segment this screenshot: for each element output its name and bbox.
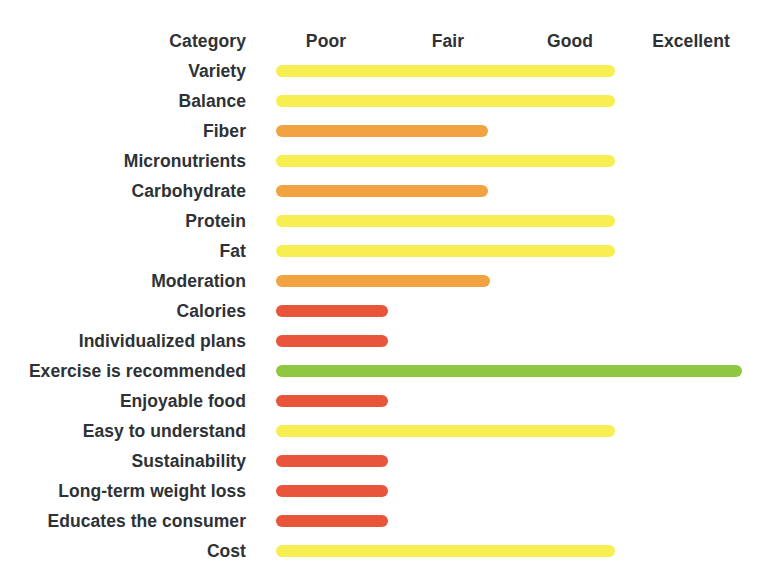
bar-track [276, 270, 746, 292]
bar-track [276, 360, 746, 382]
header-scale-fair: Fair [398, 30, 498, 52]
bar-track [276, 60, 746, 82]
chart-row: Easy to understand [0, 420, 757, 450]
rating-bar [276, 155, 615, 167]
bar-track [276, 330, 746, 352]
chart-row: Long-term weight loss [0, 480, 757, 510]
row-label: Enjoyable food [0, 390, 246, 412]
chart-row: Sustainability [0, 450, 757, 480]
row-label: Long-term weight loss [0, 480, 246, 502]
chart-row: Balance [0, 90, 757, 120]
chart-row: Protein [0, 210, 757, 240]
row-label: Individualized plans [0, 330, 246, 352]
chart-row: Educates the consumer [0, 510, 757, 540]
diet-rating-chart: Category Poor Fair Good Excellent Variet… [0, 0, 757, 562]
chart-row: Fat [0, 240, 757, 270]
row-label: Cost [0, 540, 246, 562]
bar-track [276, 420, 746, 442]
chart-row: Micronutrients [0, 150, 757, 180]
row-label: Protein [0, 210, 246, 232]
header-scale-excellent: Excellent [636, 30, 746, 52]
chart-row: Fiber [0, 120, 757, 150]
row-label: Fiber [0, 120, 246, 142]
row-label: Carbohydrate [0, 180, 246, 202]
bar-track [276, 210, 746, 232]
header-scale-poor: Poor [276, 30, 376, 52]
row-label: Sustainability [0, 450, 246, 472]
bar-track [276, 300, 746, 322]
chart-header-row: Category Poor Fair Good Excellent [0, 30, 757, 56]
bar-track [276, 120, 746, 142]
bar-track [276, 540, 746, 562]
chart-row: Carbohydrate [0, 180, 757, 210]
rating-bar [276, 95, 615, 107]
bar-track [276, 180, 746, 202]
rating-bar [276, 425, 615, 437]
rating-bar [276, 185, 488, 197]
bar-track [276, 450, 746, 472]
chart-row: Moderation [0, 270, 757, 300]
chart-row: Individualized plans [0, 330, 757, 360]
row-label: Micronutrients [0, 150, 246, 172]
row-label: Fat [0, 240, 246, 262]
row-label: Easy to understand [0, 420, 246, 442]
rating-bar [276, 215, 615, 227]
rating-bar [276, 455, 388, 467]
chart-row: Enjoyable food [0, 390, 757, 420]
rating-bar [276, 365, 742, 377]
bar-track [276, 150, 746, 172]
rating-bar [276, 65, 615, 77]
row-label: Calories [0, 300, 246, 322]
rating-bar [276, 485, 388, 497]
rating-bar [276, 275, 490, 287]
bar-track [276, 240, 746, 262]
row-label: Moderation [0, 270, 246, 292]
rating-bar [276, 515, 388, 527]
row-label: Balance [0, 90, 246, 112]
chart-row: Exercise is recommended [0, 360, 757, 390]
bar-track [276, 510, 746, 532]
rating-bar [276, 305, 388, 317]
chart-rows: VarietyBalanceFiberMicronutrientsCarbohy… [0, 60, 757, 560]
bar-track [276, 480, 746, 502]
header-scale-good: Good [520, 30, 620, 52]
row-label: Variety [0, 60, 246, 82]
chart-row: Calories [0, 300, 757, 330]
header-category-label: Category [0, 30, 246, 52]
bar-track [276, 390, 746, 412]
chart-row: Variety [0, 60, 757, 90]
rating-bar [276, 245, 615, 257]
bar-track [276, 90, 746, 112]
row-label: Exercise is recommended [0, 360, 246, 382]
rating-bar [276, 545, 615, 557]
chart-row: Cost [0, 540, 757, 562]
rating-bar [276, 335, 388, 347]
rating-bar [276, 395, 388, 407]
row-label: Educates the consumer [0, 510, 246, 532]
rating-bar [276, 125, 488, 137]
